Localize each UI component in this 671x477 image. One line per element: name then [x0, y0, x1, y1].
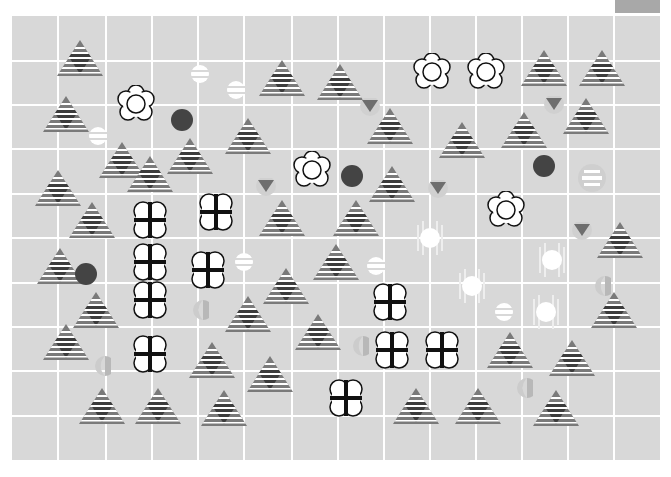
striped-triangle-piece-icon[interactable] — [73, 292, 119, 328]
striped-triangle-piece-icon[interactable] — [579, 50, 625, 86]
striped-triangle-piece-icon[interactable] — [189, 342, 235, 378]
striped-triangle-piece-icon[interactable] — [79, 388, 125, 424]
half-circle-piece-icon[interactable] — [351, 336, 369, 356]
flower-piece-icon[interactable] — [117, 85, 155, 123]
small-triangle-piece-icon[interactable] — [256, 178, 276, 198]
glowing-orb-piece-icon[interactable] — [531, 295, 561, 329]
striped-orb-piece-icon[interactable] — [191, 65, 209, 83]
striped-triangle-piece-icon[interactable] — [563, 98, 609, 134]
striped-triangle-piece-icon[interactable] — [591, 292, 637, 328]
cross-clover-piece-icon[interactable] — [132, 281, 168, 319]
striped-triangle-piece-icon[interactable] — [333, 200, 379, 236]
striped-triangle-piece-icon[interactable] — [259, 60, 305, 96]
cross-clover-piece-icon[interactable] — [372, 283, 408, 321]
striped-triangle-piece-icon[interactable] — [247, 356, 293, 392]
glowing-orb-piece-icon[interactable] — [457, 269, 487, 303]
striped-triangle-piece-icon[interactable] — [127, 156, 173, 192]
striped-triangle-piece-icon[interactable] — [455, 388, 501, 424]
half-circle-piece-icon[interactable] — [93, 356, 111, 376]
cross-clover-piece-icon[interactable] — [374, 331, 410, 369]
dark-circle-piece-icon[interactable] — [533, 155, 555, 177]
striped-orb-piece-icon[interactable] — [235, 253, 253, 271]
striped-orb-piece-icon[interactable] — [89, 127, 107, 145]
striped-triangle-piece-icon[interactable] — [549, 340, 595, 376]
flower-piece-icon[interactable] — [467, 53, 505, 91]
striped-triangle-piece-icon[interactable] — [487, 332, 533, 368]
dark-circle-piece-icon[interactable] — [171, 109, 193, 131]
cross-clover-piece-icon[interactable] — [198, 193, 234, 231]
cross-clover-piece-icon[interactable] — [132, 335, 168, 373]
striped-triangle-piece-icon[interactable] — [313, 244, 359, 280]
small-triangle-piece-icon[interactable] — [544, 96, 564, 116]
half-circle-piece-icon[interactable] — [191, 300, 209, 320]
striped-triangle-piece-icon[interactable] — [35, 170, 81, 206]
flower-piece-icon[interactable] — [293, 151, 331, 189]
grid-line-horizontal — [12, 282, 660, 284]
striped-triangle-piece-icon[interactable] — [201, 390, 247, 426]
flower-piece-icon[interactable] — [413, 53, 451, 91]
striped-triangle-piece-icon[interactable] — [597, 222, 643, 258]
striped-triangle-piece-icon[interactable] — [295, 314, 341, 350]
half-circle-piece-icon[interactable] — [593, 276, 611, 296]
striped-orb-piece-icon[interactable] — [367, 257, 385, 275]
striped-triangle-piece-icon[interactable] — [263, 268, 309, 304]
header-block — [615, 0, 660, 13]
striped-triangle-piece-icon[interactable] — [69, 202, 115, 238]
striped-triangle-piece-icon[interactable] — [43, 96, 89, 132]
half-circle-piece-icon[interactable] — [515, 378, 533, 398]
striped-triangle-piece-icon[interactable] — [135, 388, 181, 424]
faded-orb-piece-icon[interactable] — [578, 163, 606, 193]
striped-triangle-piece-icon[interactable] — [167, 138, 213, 174]
cross-clover-piece-icon[interactable] — [424, 331, 460, 369]
striped-triangle-piece-icon[interactable] — [521, 50, 567, 86]
striped-triangle-piece-icon[interactable] — [369, 166, 415, 202]
striped-orb-piece-icon[interactable] — [495, 303, 513, 321]
small-triangle-piece-icon[interactable] — [428, 180, 448, 200]
small-triangle-piece-icon[interactable] — [572, 222, 592, 242]
striped-triangle-piece-icon[interactable] — [259, 200, 305, 236]
striped-triangle-piece-icon[interactable] — [43, 324, 89, 360]
cross-clover-piece-icon[interactable] — [132, 243, 168, 281]
dark-circle-piece-icon[interactable] — [75, 263, 97, 285]
striped-triangle-piece-icon[interactable] — [317, 64, 363, 100]
striped-orb-piece-icon[interactable] — [227, 81, 245, 99]
grid-line-horizontal — [12, 193, 660, 195]
striped-triangle-piece-icon[interactable] — [439, 122, 485, 158]
cross-clover-piece-icon[interactable] — [132, 201, 168, 239]
dark-circle-piece-icon[interactable] — [341, 165, 363, 187]
striped-triangle-piece-icon[interactable] — [57, 40, 103, 76]
cross-clover-piece-icon[interactable] — [328, 379, 364, 417]
small-triangle-piece-icon[interactable] — [360, 98, 380, 118]
striped-triangle-piece-icon[interactable] — [533, 390, 579, 426]
flower-piece-icon[interactable] — [487, 191, 525, 229]
glowing-orb-piece-icon[interactable] — [537, 243, 567, 277]
glowing-orb-piece-icon[interactable] — [415, 221, 445, 255]
striped-triangle-piece-icon[interactable] — [393, 388, 439, 424]
cross-clover-piece-icon[interactable] — [190, 251, 226, 289]
striped-triangle-piece-icon[interactable] — [225, 118, 271, 154]
striped-triangle-piece-icon[interactable] — [501, 112, 547, 148]
